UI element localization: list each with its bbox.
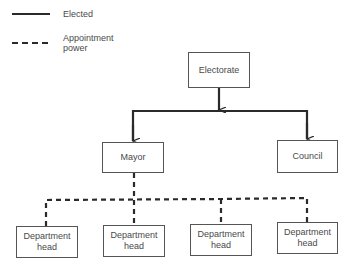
legend-elected-label: Elected: [63, 9, 93, 19]
department-head-box-1: Departmenthead: [16, 226, 78, 258]
elected-branch-line: [133, 111, 307, 141]
mayor-label: Mayor: [120, 152, 145, 163]
dept-label-line2: head: [110, 241, 157, 252]
legend-appointment-line1: Appointment: [63, 33, 114, 43]
dept-label-line2: head: [23, 242, 70, 253]
dept-label-line1: Department: [284, 227, 331, 238]
electorate-box: Electorate: [188, 52, 250, 88]
electorate-label: Electorate: [199, 65, 240, 76]
dept-label-line1: Department: [110, 230, 157, 241]
council-label: Council: [292, 151, 322, 162]
appointment-branch-line: [46, 198, 307, 226]
legend-appointment-line2: power: [63, 43, 114, 53]
council-box: Council: [277, 140, 338, 173]
dept-label-line1: Department: [23, 231, 70, 242]
mayor-box: Mayor: [102, 142, 164, 173]
department-head-box-3: Departmenthead: [190, 224, 252, 256]
dept-label-line1: Department: [197, 229, 244, 240]
department-head-box-2: Departmenthead: [103, 225, 165, 257]
legend-appointment-label: Appointment power: [63, 33, 114, 53]
department-head-box-4: Departmenthead: [277, 222, 338, 254]
dept-label-line2: head: [197, 240, 244, 251]
dept-label-line2: head: [284, 238, 331, 249]
